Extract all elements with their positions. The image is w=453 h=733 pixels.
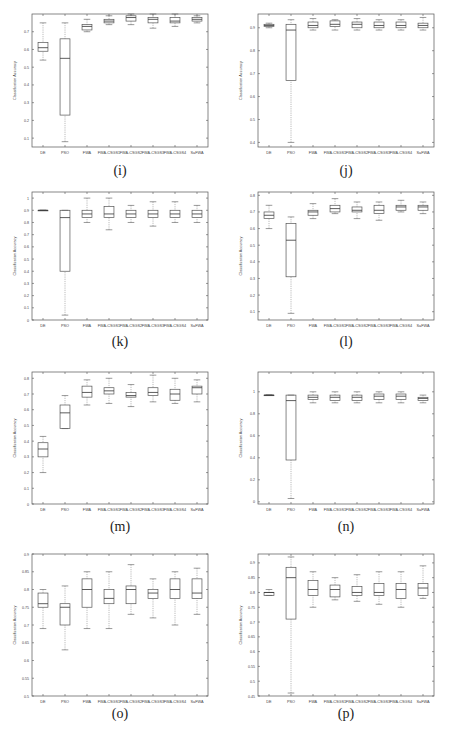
x-tick-label: FWA <box>83 700 92 704</box>
x-tick-label: DE <box>40 700 46 704</box>
panel-caption: (k) <box>100 334 140 350</box>
y-tick-label: 0.4 <box>24 270 29 274</box>
y-tick-label: 0.1 <box>24 306 29 310</box>
boxplot-panel-l: 0.10.20.30.40.50.60.70.8Classification A… <box>228 188 444 340</box>
x-tick-label: FWA-CSGS1 <box>324 700 346 704</box>
y-tick-label: 0.6 <box>24 659 29 663</box>
x-tick-label: DE <box>266 700 272 704</box>
x-tick-label: PSO <box>61 700 69 704</box>
y-tick-label: 0 <box>253 500 255 504</box>
x-tick-label: FWA-CSGS4 <box>390 700 412 704</box>
y-axis-label: Classification Accuracy <box>13 61 17 100</box>
y-tick-label: 0.65 <box>248 635 255 639</box>
y-tick-label: 0 <box>27 319 29 323</box>
x-tick-label: FWA-CSGS1 <box>324 324 346 328</box>
y-tick-label: 0.4 <box>250 141 255 145</box>
y-tick-label: 0.8 <box>250 49 255 53</box>
x-tick-label: FWA <box>309 324 318 328</box>
y-tick-label: 0.1 <box>24 137 29 141</box>
x-tick-label: FWA-CSGS1 <box>98 151 120 155</box>
y-tick-label: 0.5 <box>24 258 29 262</box>
panel-caption: (j) <box>326 163 366 179</box>
y-tick-label: 1 <box>253 390 255 394</box>
y-tick-label: 0.1 <box>250 310 255 314</box>
y-tick-label: 0.7 <box>24 393 29 397</box>
x-tick-label: DE <box>40 324 46 328</box>
y-tick-label: 0.8 <box>24 588 29 592</box>
y-tick-label: 0.2 <box>250 294 255 298</box>
x-tick-label: FWA-CSGS3 <box>368 324 390 328</box>
y-axis-label: Classification Accuracy <box>239 61 243 100</box>
x-tick-label: FWA-CSGS3 <box>368 151 390 155</box>
y-tick-label: 0.7 <box>24 233 29 237</box>
y-tick-label: 0.8 <box>250 591 255 595</box>
panel-caption: (l) <box>326 334 366 350</box>
y-tick-label: 0.85 <box>248 576 255 580</box>
y-tick-label: 0.85 <box>22 570 29 574</box>
y-tick-label: 0.2 <box>24 119 29 123</box>
boxplot-panel-m: 00.10.20.30.40.50.60.70.8Classification … <box>2 368 218 524</box>
y-tick-label: 0.5 <box>250 244 255 248</box>
x-tick-label: FWA-CSGS3 <box>368 700 390 704</box>
x-tick-label: PSO <box>287 324 295 328</box>
boxplot-svg: 00.20.40.60.81Classification AccuracyDEP… <box>228 368 444 524</box>
y-tick-label: 0.8 <box>24 221 29 225</box>
y-tick-label: 0.3 <box>24 101 29 105</box>
y-tick-label: 0.3 <box>24 282 29 286</box>
y-axis-label: Classification Accuracy <box>239 418 243 457</box>
x-tick-label: PSO <box>61 508 69 512</box>
y-tick-label: 0 <box>27 503 29 507</box>
x-tick-label: FWA-CSGS2 <box>346 700 368 704</box>
x-tick-label: FWA-CSGS2 <box>120 700 142 704</box>
x-tick-label: FWA-CSGS2 <box>346 151 368 155</box>
y-tick-label: 0.9 <box>24 209 29 213</box>
x-tick-label: FWA-CSGS4 <box>390 324 412 328</box>
x-tick-label: PSO <box>61 324 69 328</box>
x-tick-label: FWA-CSGS1 <box>324 508 346 512</box>
x-tick-label: FWA-CSGS1 <box>324 151 346 155</box>
x-tick-label: FWA-CSGS4 <box>164 151 186 155</box>
y-tick-label: 0.5 <box>24 66 29 70</box>
y-tick-label: 0.65 <box>22 641 29 645</box>
x-tick-label: DE <box>40 151 46 155</box>
boxplot-svg: 00.10.20.30.40.50.60.70.8Classification … <box>2 368 218 524</box>
y-tick-label: 0.75 <box>248 606 255 610</box>
y-tick-label: 0.6 <box>24 48 29 52</box>
x-tick-label: SaFWA <box>191 324 204 328</box>
y-tick-label: 0.3 <box>250 277 255 281</box>
y-tick-label: 0.8 <box>250 194 255 198</box>
x-tick-label: FWA-CSGS3 <box>142 151 164 155</box>
x-tick-label: FWA-CSGS2 <box>120 508 142 512</box>
y-axis-label: Classification Accuracy <box>13 605 17 644</box>
y-tick-label: 0.6 <box>250 434 255 438</box>
x-tick-label: FWA-CSGS1 <box>98 508 120 512</box>
x-tick-label: FWA-CSGS4 <box>164 508 186 512</box>
x-tick-label: FWA <box>309 508 318 512</box>
x-tick-label: FWA-CSGS3 <box>368 508 390 512</box>
y-tick-label: 0.7 <box>250 72 255 76</box>
y-tick-label: 0.5 <box>250 118 255 122</box>
y-tick-label: 0.8 <box>24 377 29 381</box>
boxplot-svg: 0.450.50.550.60.650.70.750.80.850.9Class… <box>228 550 444 716</box>
y-tick-label: 0.5 <box>24 424 29 428</box>
boxplot-panel-j: 0.40.50.60.70.80.9Classification Accurac… <box>228 10 444 167</box>
y-tick-label: 0.2 <box>24 294 29 298</box>
boxplot-svg: 0.50.550.60.650.70.750.80.850.9Classific… <box>2 550 218 716</box>
x-tick-label: FWA <box>309 151 318 155</box>
x-tick-label: FWA-CSGS2 <box>120 151 142 155</box>
x-tick-label: PSO <box>287 700 295 704</box>
boxplot-panel-k: 00.10.20.30.40.50.60.70.80.91Classificat… <box>2 188 218 340</box>
boxplot-panel-o: 0.50.550.60.650.70.750.80.850.9Classific… <box>2 550 218 716</box>
y-tick-label: 0.9 <box>250 561 255 565</box>
y-tick-label: 0.6 <box>250 227 255 231</box>
y-axis-label: Classification Accuracy <box>13 236 17 275</box>
x-tick-label: FWA-CSGS4 <box>164 700 186 704</box>
x-tick-label: FWA-CSGS1 <box>98 700 120 704</box>
x-tick-label: PSO <box>61 151 69 155</box>
boxplot-svg: 0.10.20.30.40.50.60.7Classification Accu… <box>2 10 218 167</box>
x-tick-label: SaFWA <box>417 508 430 512</box>
y-tick-label: 0.5 <box>250 680 255 684</box>
x-tick-label: FWA <box>309 700 318 704</box>
x-tick-label: FWA-CSGS2 <box>120 324 142 328</box>
y-tick-label: 0.7 <box>250 210 255 214</box>
